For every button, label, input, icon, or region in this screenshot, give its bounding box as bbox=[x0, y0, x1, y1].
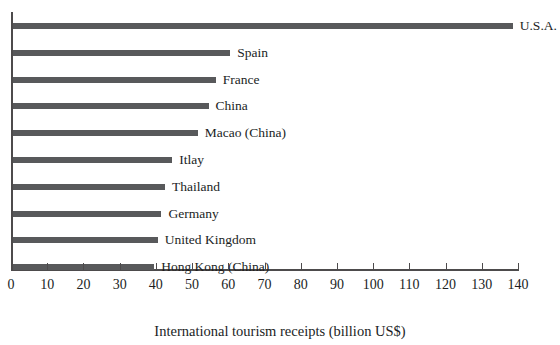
plot-area: U.S.A.SpainFranceChinaMacao (China)Itlay… bbox=[0, 0, 560, 272]
bar-label: U.S.A. bbox=[520, 19, 557, 33]
bar bbox=[13, 157, 172, 163]
bar-label: Spain bbox=[237, 46, 268, 60]
x-axis-tick-label: 90 bbox=[330, 278, 344, 292]
bar bbox=[13, 103, 209, 109]
bar-row: Macao (China) bbox=[13, 130, 198, 136]
bar-label: Hong Kong (China) bbox=[161, 260, 269, 274]
bar bbox=[13, 77, 216, 83]
bar-label: China bbox=[216, 100, 248, 114]
bar-label: Macao (China) bbox=[205, 126, 286, 140]
x-axis-tick bbox=[192, 263, 193, 270]
x-axis-tick-label: 70 bbox=[258, 278, 272, 292]
bar-chart: U.S.A.SpainFranceChinaMacao (China)Itlay… bbox=[0, 0, 560, 345]
x-axis-tick bbox=[83, 263, 84, 270]
x-axis-tick bbox=[373, 263, 374, 270]
bar-row: United Kingdom bbox=[13, 237, 158, 243]
bar-row: Itlay bbox=[13, 157, 172, 163]
bar bbox=[13, 130, 198, 136]
x-axis-tick-label: 100 bbox=[363, 278, 384, 292]
bar bbox=[13, 184, 165, 190]
x-axis-tick-label: 0 bbox=[8, 278, 15, 292]
x-axis-tick bbox=[47, 263, 48, 270]
x-axis-tick bbox=[409, 263, 410, 270]
bar-label: Germany bbox=[168, 207, 218, 221]
x-axis-tick bbox=[482, 263, 483, 270]
x-axis-tick-label: 50 bbox=[185, 278, 199, 292]
x-axis-tick bbox=[120, 263, 121, 270]
x-axis-tick-label: 120 bbox=[435, 278, 456, 292]
bar bbox=[13, 50, 230, 56]
x-axis-tick bbox=[301, 263, 302, 270]
bar-row: Spain bbox=[13, 50, 230, 56]
x-axis-tick bbox=[11, 263, 12, 270]
bar bbox=[13, 23, 513, 29]
x-axis-tick-label: 40 bbox=[149, 278, 163, 292]
bar-label: United Kingdom bbox=[165, 234, 256, 248]
x-axis-title: International tourism receipts (billion … bbox=[0, 324, 560, 339]
x-axis-tick-label: 130 bbox=[471, 278, 492, 292]
x-axis-tick bbox=[265, 263, 266, 270]
bar-label: Itlay bbox=[179, 153, 204, 167]
bar bbox=[13, 211, 161, 217]
x-axis-tick bbox=[228, 263, 229, 270]
x-axis-tick-label: 110 bbox=[399, 278, 419, 292]
x-axis-tick-label: 30 bbox=[113, 278, 127, 292]
bar-row: U.S.A. bbox=[13, 23, 513, 29]
bar-row: France bbox=[13, 77, 216, 83]
x-axis-tick-label: 20 bbox=[76, 278, 90, 292]
x-axis-tick-label: 80 bbox=[294, 278, 308, 292]
x-axis-tick bbox=[518, 263, 519, 270]
x-axis-tick bbox=[156, 263, 157, 270]
x-axis-tick bbox=[337, 263, 338, 270]
bar-row: Thailand bbox=[13, 184, 165, 190]
bar-row: China bbox=[13, 103, 209, 109]
bar-label: Thailand bbox=[172, 180, 220, 194]
bar-label: France bbox=[223, 73, 260, 87]
x-axis-tick bbox=[446, 263, 447, 270]
x-axis-tick-label: 10 bbox=[40, 278, 54, 292]
bar bbox=[13, 237, 158, 243]
x-axis-tick-label: 140 bbox=[508, 278, 529, 292]
bar-row: Germany bbox=[13, 211, 161, 217]
x-axis-tick-label: 60 bbox=[221, 278, 235, 292]
